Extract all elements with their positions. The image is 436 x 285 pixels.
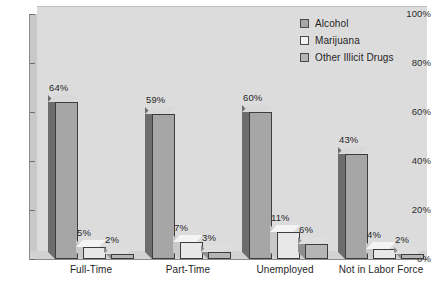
legend-item: Other Illicit Drugs — [300, 50, 394, 65]
bar — [305, 244, 328, 259]
bar-front-face — [305, 244, 328, 259]
bar — [373, 249, 396, 259]
bar-front-face — [180, 242, 203, 259]
bar-value-label: 43% — [339, 134, 358, 145]
bar — [152, 114, 175, 259]
y-axis-tick-label: 40% — [403, 155, 431, 166]
legend-item: Marijuana — [300, 33, 394, 48]
bar-side-face — [48, 95, 55, 259]
y-axis-tick-mark — [30, 112, 35, 113]
legend-item-label: Other Illicit Drugs — [315, 52, 394, 63]
bar-value-label: 4% — [367, 229, 381, 240]
legend-item-label: Alcohol — [315, 18, 349, 29]
y-axis-tick-label: 100% — [403, 8, 431, 19]
bar-front-face — [83, 247, 106, 259]
bar-value-label: 2% — [105, 234, 119, 245]
y-axis-tick-mark — [30, 161, 35, 162]
bar — [180, 242, 203, 259]
legend-item: Alcohol — [300, 16, 394, 31]
y-axis-line — [29, 14, 30, 260]
bar-front-face — [208, 252, 231, 259]
bar-value-label: 11% — [271, 212, 290, 223]
bar-value-label: 2% — [395, 234, 409, 245]
y-axis-tick-label: 60% — [403, 106, 431, 117]
y-axis-tick-mark — [30, 259, 35, 260]
bar — [83, 247, 106, 259]
bar — [277, 232, 300, 259]
bar-front-face — [111, 254, 134, 259]
bar — [55, 102, 78, 259]
bar-front-face — [401, 254, 424, 259]
bar-front-face — [345, 154, 368, 259]
bar-side-face — [338, 147, 345, 259]
bar-side-face — [242, 105, 249, 259]
x-axis-category-label: Not in Labor Force — [321, 264, 436, 275]
y-axis-tick-label: 20% — [403, 204, 431, 215]
bar-value-label: 60% — [243, 92, 262, 103]
x-axis-line — [29, 259, 427, 260]
y-axis-tick-label: 80% — [403, 57, 431, 68]
bar — [401, 254, 424, 259]
plot-top-edge — [37, 6, 427, 7]
bar — [345, 154, 368, 259]
y-axis-tick-mark — [30, 14, 35, 15]
bar-value-label: 59% — [146, 94, 165, 105]
bar-front-face — [277, 232, 300, 259]
bar-value-label: 3% — [202, 232, 216, 243]
bar-front-face — [152, 114, 175, 259]
legend-swatch-icon — [300, 19, 309, 28]
bar-front-face — [249, 112, 272, 259]
bar-front-face — [373, 249, 396, 259]
legend-item-label: Marijuana — [315, 35, 360, 46]
bar-value-label: 64% — [49, 82, 68, 93]
bar-value-label: 5% — [77, 227, 91, 238]
y-axis-tick-mark — [30, 63, 35, 64]
bar — [208, 252, 231, 259]
bar-value-label: 6% — [299, 224, 313, 235]
bar-value-label: 7% — [174, 222, 188, 233]
bar-side-face — [145, 107, 152, 259]
bar-front-face — [55, 102, 78, 259]
legend-swatch-icon — [300, 36, 309, 45]
legend-swatch-icon — [300, 53, 309, 62]
y-axis-tick-mark — [30, 210, 35, 211]
chart-legend: AlcoholMarijuanaOther Illicit Drugs — [300, 16, 394, 67]
bar — [249, 112, 272, 259]
bar — [111, 254, 134, 259]
